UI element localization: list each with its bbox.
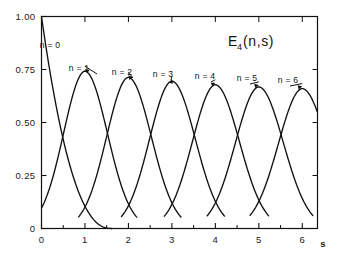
curve-label-text: n = 4 xyxy=(195,71,215,81)
x-axis-tick-labels: 0123456 xyxy=(39,234,305,245)
figure-container: 00.250.500.751.00 0123456 n = 0n = 1n = … xyxy=(0,0,338,263)
curve-n-4 xyxy=(164,85,268,216)
curve-label-text: n = 6 xyxy=(278,75,298,85)
curve-label-n-0: n = 0 xyxy=(40,40,60,50)
y-tick-label: 0.50 xyxy=(15,117,35,128)
x-tick-label: 6 xyxy=(299,234,305,245)
plot-title: E 4 (n,s) xyxy=(228,33,274,52)
curve-label-n-2: n = 2 xyxy=(112,67,133,80)
x-tick-label: 2 xyxy=(126,234,132,245)
curve-n-1 xyxy=(42,71,137,217)
curve-label-n-4: n = 4 xyxy=(195,71,216,87)
x-tick-label: 1 xyxy=(82,234,88,245)
curve-label-text: n = 3 xyxy=(153,69,173,79)
curve-n-6 xyxy=(250,89,317,216)
curve-label-n-5: n = 5 xyxy=(237,73,259,88)
y-axis-ticks xyxy=(42,17,318,229)
curve-label-n-1: n = 1 xyxy=(69,63,97,74)
x-axis-unit-label: s xyxy=(320,238,325,249)
y-tick-label: 0.25 xyxy=(15,170,35,181)
x-tick-label: 4 xyxy=(213,234,219,245)
y-tick-label: 1.00 xyxy=(15,11,35,22)
x-tick-label: 0 xyxy=(39,234,45,245)
curve-label-text: n = 5 xyxy=(237,73,257,83)
curve-label-text: n = 2 xyxy=(112,67,132,77)
title-args-text: (n,s) xyxy=(243,33,274,49)
y-axis-tick-labels: 00.250.500.751.00 xyxy=(15,11,35,234)
curve-n-3 xyxy=(121,81,224,216)
x-tick-label: 3 xyxy=(169,234,175,245)
y-tick-label: 0.75 xyxy=(15,64,35,75)
curve-label-n-3: n = 3 xyxy=(153,69,173,84)
data-curves xyxy=(42,17,318,229)
curve-label-text: n = 1 xyxy=(69,63,89,73)
curve-label-text: n = 0 xyxy=(40,40,60,50)
plot-frame xyxy=(42,17,318,229)
x-tick-label: 5 xyxy=(256,234,262,245)
plot-svg: 00.250.500.751.00 0123456 n = 0n = 1n = … xyxy=(0,0,338,263)
y-tick-label: 0 xyxy=(30,223,36,234)
curve-n-2 xyxy=(79,77,181,217)
curve-n-5 xyxy=(207,87,313,216)
title-subscript-text: 4 xyxy=(237,42,242,52)
curve-label-n-6: n = 6 xyxy=(278,75,302,89)
